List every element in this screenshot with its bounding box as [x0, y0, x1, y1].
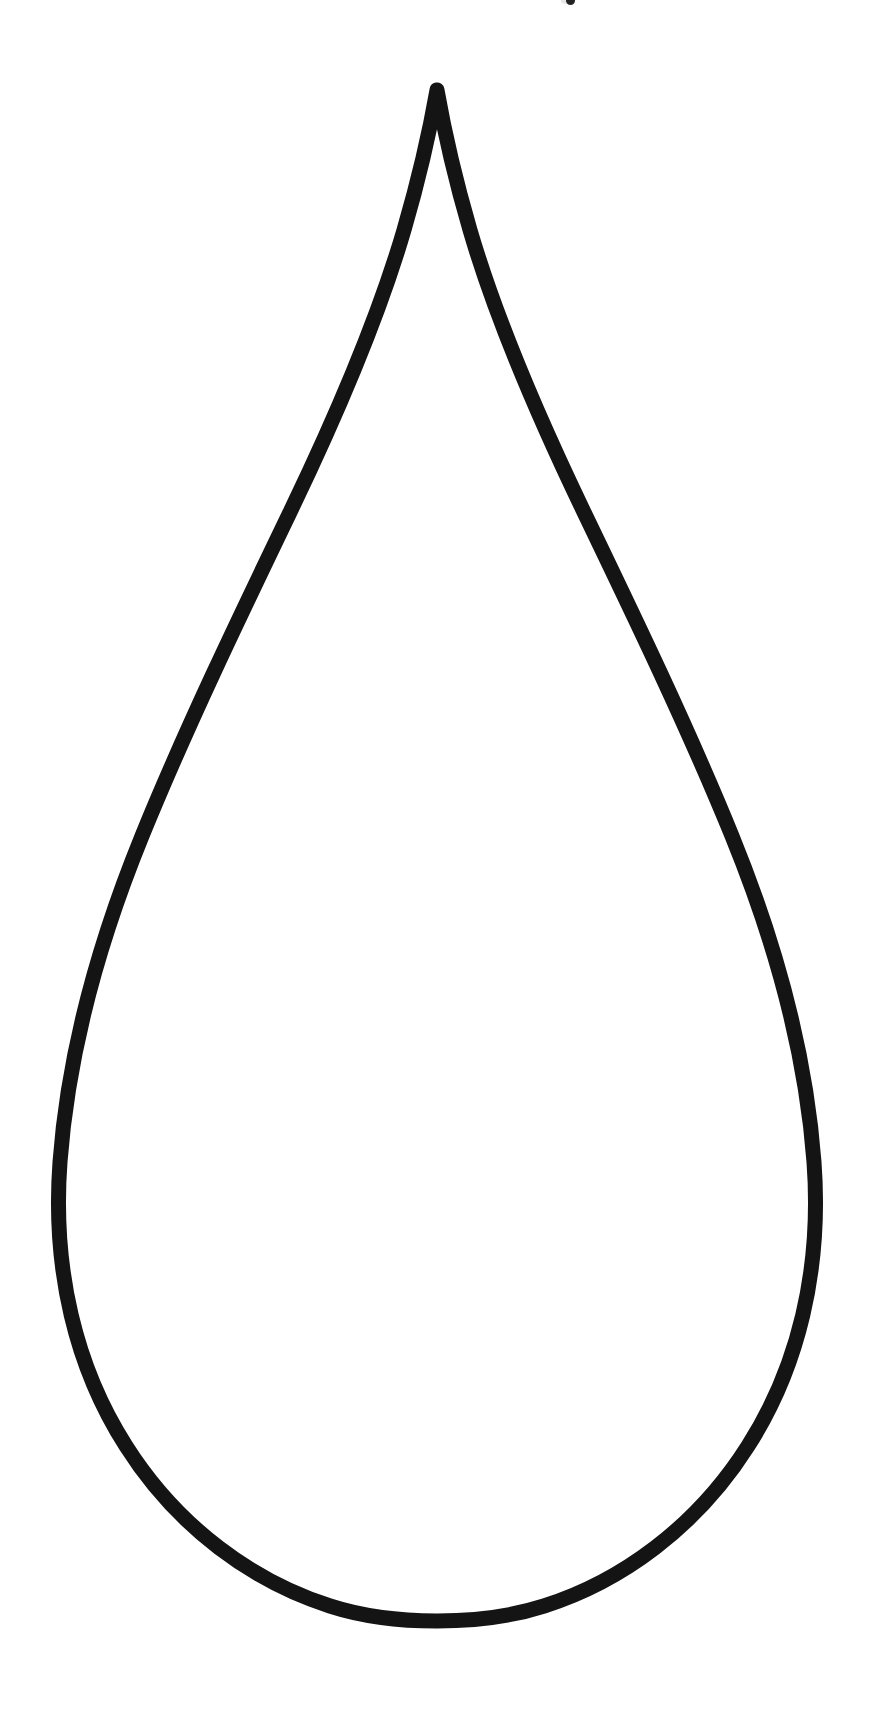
- page-canvas: [0, 0, 878, 1722]
- artwork-canvas: [0, 0, 878, 1722]
- teardrop-svg: [0, 0, 878, 1722]
